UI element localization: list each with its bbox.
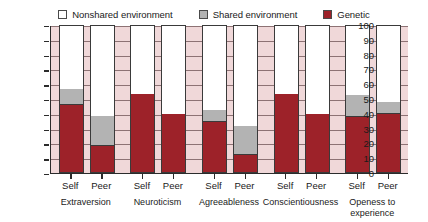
bar-agreeableness-peer xyxy=(233,25,258,173)
x-tick-mark xyxy=(245,174,246,179)
y-tick-mark xyxy=(44,41,49,42)
x-tick-mark xyxy=(173,174,174,179)
bar-openess-to-experience-peer xyxy=(376,25,401,173)
x-axis-group-label: Neuroticism xyxy=(117,197,197,208)
y-tick-mark xyxy=(44,130,49,131)
x-axis-group-label: Openess to experience xyxy=(332,197,412,218)
y-tick-mark xyxy=(44,26,49,27)
bar-segment-shared xyxy=(60,89,83,105)
y-tick-mark xyxy=(44,70,49,71)
x-tick-mark xyxy=(142,174,143,179)
x-tick-mark xyxy=(388,174,389,179)
y-tick-mark xyxy=(44,56,49,57)
bar-segment-genetic xyxy=(91,146,114,172)
bar-segment-genetic xyxy=(131,94,154,172)
y-tick-label: 60 xyxy=(352,80,374,90)
y-tick-label: 30 xyxy=(352,125,374,135)
y-tick-mark xyxy=(44,85,49,86)
x-axis-sub-label-peer: Peer xyxy=(153,180,193,191)
x-tick-mark xyxy=(70,174,71,179)
legend-label: Shared environment xyxy=(213,9,298,20)
bar-segment-shared xyxy=(91,116,114,146)
x-tick-mark xyxy=(316,174,317,179)
x-axis-group-label: Conscientiousness xyxy=(261,197,341,208)
y-tick-mark xyxy=(44,174,49,175)
x-axis-group-label: Extraversion xyxy=(46,197,126,208)
y-tick-label: 100 xyxy=(352,21,374,31)
bar-conscientiousness-self xyxy=(274,25,299,173)
y-tick-label: 90 xyxy=(352,36,374,46)
y-tick-mark xyxy=(44,159,49,160)
bar-extraversion-self xyxy=(59,25,84,173)
legend-swatch-icon xyxy=(58,10,67,19)
x-axis-sub-label-peer: Peer xyxy=(225,180,265,191)
y-tick-label: 20 xyxy=(352,139,374,149)
x-tick-mark xyxy=(285,174,286,179)
x-axis-sub-label-peer: Peer xyxy=(81,180,121,191)
x-tick-mark xyxy=(101,174,102,179)
bar-segment-shared xyxy=(203,110,226,122)
legend-entry: Nonshared environment xyxy=(58,9,172,20)
bar-segment-genetic xyxy=(162,114,185,172)
y-tick-mark xyxy=(44,144,49,145)
legend-entry: Genetic xyxy=(323,9,369,20)
bar-conscientiousness-peer xyxy=(305,25,330,173)
bar-segment-genetic xyxy=(275,94,298,172)
bar-neuroticism-self xyxy=(130,25,155,173)
bar-extraversion-peer xyxy=(90,25,115,173)
bar-segment-genetic xyxy=(203,122,226,172)
y-tick-mark xyxy=(44,115,49,116)
legend-swatch-icon xyxy=(323,10,332,19)
bar-agreeableness-self xyxy=(202,25,227,173)
x-axis-sub-label-peer: Peer xyxy=(296,180,336,191)
legend-label: Genetic xyxy=(337,9,369,20)
y-tick-label: 10 xyxy=(352,154,374,164)
legend-swatch-icon xyxy=(199,10,208,19)
x-axis-group-label: Agreeableness xyxy=(189,197,269,208)
bar-segment-shared xyxy=(234,126,257,155)
bar-segment-genetic xyxy=(377,114,400,172)
bar-segment-genetic xyxy=(234,155,257,172)
x-tick-mark xyxy=(214,174,215,179)
y-tick-mark xyxy=(44,100,49,101)
bar-neuroticism-peer xyxy=(161,25,186,173)
legend-entry: Shared environment xyxy=(199,9,298,20)
x-axis-sub-label-peer: Peer xyxy=(368,180,408,191)
bar-segment-genetic xyxy=(306,114,329,172)
bar-segment-shared xyxy=(377,102,400,113)
y-tick-label: 0 xyxy=(352,169,374,179)
y-tick-label: 80 xyxy=(352,51,374,61)
legend-label: Nonshared environment xyxy=(72,9,172,20)
y-tick-label: 70 xyxy=(352,65,374,75)
bar-segment-genetic xyxy=(60,105,83,172)
x-tick-mark xyxy=(357,174,358,179)
y-tick-label: 50 xyxy=(352,95,374,105)
y-tick-label: 40 xyxy=(352,110,374,120)
